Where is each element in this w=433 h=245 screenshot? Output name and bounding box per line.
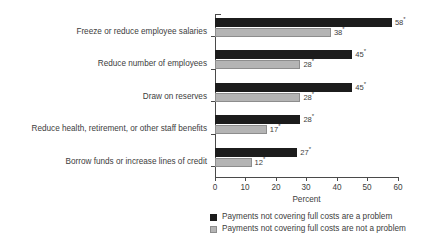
y-axis-tick xyxy=(211,134,215,135)
bar-value-label: 45* xyxy=(355,50,366,59)
bar-value-label: 12* xyxy=(255,158,266,167)
x-axis-tick xyxy=(245,177,246,181)
bar xyxy=(215,83,352,92)
bar xyxy=(215,115,300,124)
x-axis-tick xyxy=(215,177,216,181)
bar-value-label: 45* xyxy=(355,83,366,92)
x-axis-tick-label: 50 xyxy=(362,183,371,192)
bar-value-label: 27* xyxy=(300,148,311,157)
bar-value-label: 28* xyxy=(303,93,314,102)
x-axis-tick-label: 60 xyxy=(393,183,402,192)
bar-value-label: 28* xyxy=(303,60,314,69)
legend-label: Payments not covering full costs are not… xyxy=(222,224,406,234)
x-axis-tick-label: 30 xyxy=(301,183,310,192)
category-label: Reduce health, retirement, or other staf… xyxy=(31,124,207,134)
bar-value-label: 17* xyxy=(270,125,281,134)
legend-item: Payments not covering full costs are not… xyxy=(210,223,406,235)
x-axis-tick-label: 10 xyxy=(240,183,249,192)
x-axis-tick xyxy=(337,177,338,181)
category-label: Borrow funds or increase lines of credit xyxy=(65,157,207,167)
bar xyxy=(215,93,300,102)
bar xyxy=(215,125,267,134)
bar-value-label: 28* xyxy=(303,115,314,124)
y-axis-tick xyxy=(211,69,215,70)
x-axis-tick xyxy=(306,177,307,181)
bar xyxy=(215,60,300,69)
x-axis-tick xyxy=(398,177,399,181)
legend-label: Payments not covering full costs are a p… xyxy=(222,212,392,222)
bar xyxy=(215,28,331,37)
bar xyxy=(215,18,392,27)
bar-chart: Freeze or reduce employee salaries Reduc… xyxy=(0,0,433,245)
category-axis-labels: Freeze or reduce employee salaries Reduc… xyxy=(0,14,211,177)
x-axis-tick-label: 40 xyxy=(332,183,341,192)
legend-swatch-problem-icon xyxy=(210,214,217,221)
bar-value-label: 38* xyxy=(334,28,345,37)
x-axis-tick-label: 0 xyxy=(213,183,218,192)
bar xyxy=(215,158,252,167)
x-axis-tick-label: 20 xyxy=(271,183,280,192)
legend-item: Payments not covering full costs are a p… xyxy=(210,211,406,223)
category-label: Draw on reserves xyxy=(143,92,207,102)
x-axis-tick xyxy=(367,177,368,181)
category-label: Freeze or reduce employee salaries xyxy=(76,27,207,37)
x-axis-title: Percent xyxy=(215,195,398,204)
legend: Payments not covering full costs are a p… xyxy=(210,211,406,235)
y-axis-top-cap xyxy=(215,14,221,15)
category-label: Reduce number of employees xyxy=(98,59,207,69)
bar xyxy=(215,148,297,157)
bar-value-label: 58* xyxy=(395,18,406,27)
bar xyxy=(215,50,352,59)
x-axis-tick xyxy=(276,177,277,181)
legend-swatch-not-problem-icon xyxy=(210,226,217,233)
